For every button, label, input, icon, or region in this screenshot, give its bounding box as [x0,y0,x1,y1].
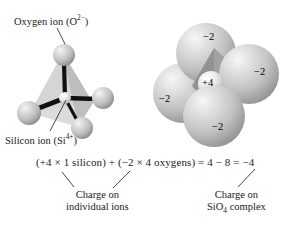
leader-right [238,169,255,187]
oxygen-ion-label-text: Oxygen ion (O [14,16,77,27]
leader-left-b [113,171,130,188]
caption-leader-lines [62,169,255,188]
silicon-ion-charge-superscript: 4+ [66,132,74,141]
charge-label-center: +4 [202,77,213,88]
oxygen-ion-label-close: ) [85,16,89,27]
oxygen-sphere-left [17,101,41,125]
charge-label-right: −2 [254,66,265,77]
caption-individual-ions: Charge on individual ions [66,189,129,213]
oxygen-sphere-top [53,44,75,66]
left-ball-and-stick-model [17,28,114,139]
sio4-charge-figure: Oxygen ion (O2−) Silicon ion (Si4+) −2 −… [0,0,288,226]
charge-label-bottom: −2 [212,121,223,132]
oxygen-ion-label: Oxygen ion (O2−) [14,14,88,28]
silicon-ion-label-close: ) [74,135,78,146]
caption-sio4-complex: Charge on SiO4 complex [207,189,266,216]
charge-equation: (+4 × 1 silicon) + (−2 × 4 oxygens) = 4 … [36,156,254,169]
charge-label-top: −2 [203,31,214,42]
oxygen-sphere-right [92,87,114,109]
oxygen-ion-charge-superscript: 2− [77,13,85,22]
sio4-formula-suffix: complex [227,201,266,212]
sio4-formula-prefix: SiO [207,201,223,212]
oxygen-spacefill-bottom [183,85,245,147]
silicon-ion-label-text: Silicon ion (Si [5,135,66,146]
charge-label-left: −2 [159,93,170,104]
caption-sio4-complex-line2: SiO4 complex [207,201,266,216]
caption-sio4-complex-line1: Charge on [207,189,266,201]
caption-individual-ions-line2: individual ions [66,201,129,213]
leader-left-a [62,172,74,187]
caption-individual-ions-line1: Charge on [66,189,129,201]
silicon-ion-label: Silicon ion (Si4+) [5,133,77,147]
